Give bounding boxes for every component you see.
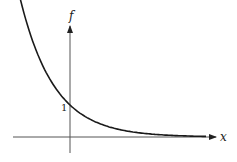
plot-canvas: f x 1 xyxy=(0,0,237,162)
decay-curve xyxy=(17,0,206,136)
x-axis-label: x xyxy=(220,130,227,144)
y-axis-label: f xyxy=(68,9,76,23)
y-intercept-label: 1 xyxy=(61,102,67,113)
